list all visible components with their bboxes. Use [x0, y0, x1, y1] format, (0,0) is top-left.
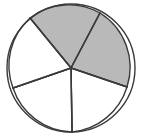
radius-bottom-line	[71, 68, 72, 132]
figure-container	[0, 0, 143, 139]
pie-diagram	[0, 0, 143, 139]
